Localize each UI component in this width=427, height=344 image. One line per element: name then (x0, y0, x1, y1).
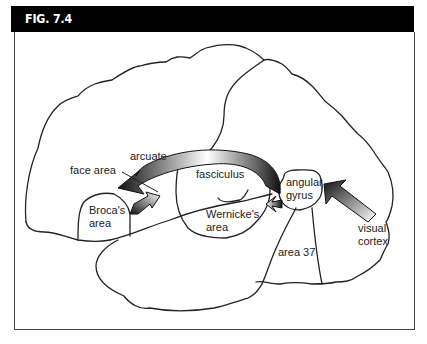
label-brocas-area: area (89, 217, 112, 229)
label-visual: visual (358, 222, 386, 234)
label-wernickes: Wernicke's (206, 208, 260, 220)
brain-diagram: face area arcuate fasciculus angular gyr… (0, 0, 427, 344)
label-angular: angular (286, 176, 323, 188)
label-cortex: cortex (358, 235, 388, 247)
wernickes-notch (218, 190, 248, 202)
temporal-lobe-outline (96, 240, 262, 311)
label-gyrus: gyrus (286, 189, 313, 201)
label-fasciculus: fasciculus (196, 168, 245, 180)
label-area37: area 37 (278, 246, 315, 258)
label-wernickes-area: area (206, 221, 229, 233)
label-face-area: face area (70, 164, 117, 176)
label-brocas: Broca's (89, 204, 126, 216)
broca-outgoing-arrow (130, 192, 160, 214)
occipital-outline (256, 59, 393, 284)
visual-cortex-arrow (324, 180, 376, 222)
parietal-fold (198, 60, 264, 160)
frontal-lobe-outline (26, 45, 265, 222)
label-arcuate: arcuate (130, 150, 167, 162)
